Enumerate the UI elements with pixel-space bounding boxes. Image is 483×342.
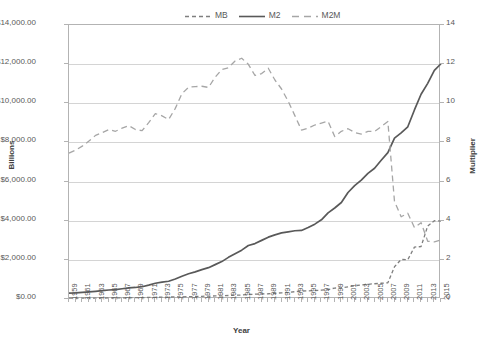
x-axis-tick-label: 1987 <box>257 283 265 300</box>
x-axis-tick <box>334 298 335 302</box>
x-axis-tick-label: 1991 <box>284 283 292 300</box>
legend-swatch-m2m <box>292 12 318 19</box>
x-axis-tick <box>307 298 308 302</box>
y-axis-left-tick <box>64 102 68 103</box>
y-axis-left-tick <box>64 63 68 64</box>
x-axis-tick-label: 1979 <box>204 283 212 300</box>
x-axis-tick-label: 2001 <box>350 283 358 300</box>
x-axis-tick <box>254 298 255 302</box>
y-axis-right-tick <box>440 63 444 64</box>
x-axis-tick-label: 1985 <box>244 283 252 300</box>
y-axis-right-tick-label: 10 <box>446 97 476 105</box>
x-axis-tick-label: 1981 <box>217 283 225 300</box>
x-axis-tick-label: 1973 <box>164 283 172 300</box>
legend-item-m2m: M2M <box>292 11 341 20</box>
legend-swatch-m2 <box>239 12 265 19</box>
x-axis-tick <box>374 298 375 302</box>
x-axis-tick <box>188 298 189 302</box>
y-axis-right-tick-label: 8 <box>446 136 476 144</box>
x-axis-tick-label: 1967 <box>124 283 132 300</box>
x-axis-tick-label: 1989 <box>270 283 278 300</box>
x-axis-tick-label: 1971 <box>151 283 159 300</box>
y-axis-left-tick-label: $2,000.00 <box>0 254 36 262</box>
x-axis-tick-label: 1965 <box>111 283 119 300</box>
legend-item-mb: MB <box>185 11 228 20</box>
series-line-m2m <box>69 58 441 242</box>
x-axis-tick <box>241 298 242 302</box>
x-axis-tick-label: 2013 <box>430 283 438 300</box>
legend-label-mb: MB <box>215 11 228 20</box>
x-axis-tick-label: 2011 <box>416 284 424 300</box>
x-axis-tick-label: 1963 <box>98 283 106 300</box>
y-axis-right-tick-label: 4 <box>446 215 476 223</box>
x-axis-tick <box>440 298 441 302</box>
y-axis-right-tick-label: 12 <box>446 58 476 66</box>
legend-swatch-mb <box>185 12 211 19</box>
x-axis-tick <box>294 298 295 302</box>
x-axis-tick-label: 1959 <box>71 283 79 300</box>
plot-area <box>68 24 440 298</box>
y-axis-left-tick-label: $10,000.00 <box>0 97 36 105</box>
x-axis-tick <box>95 298 96 302</box>
x-axis-tick <box>68 298 69 302</box>
legend-label-m2: M2 <box>269 11 281 20</box>
x-axis-title: Year <box>0 327 483 335</box>
x-axis-tick <box>148 298 149 302</box>
y-axis-right-tick <box>440 181 444 182</box>
x-axis-tick-label: 2009 <box>403 283 411 300</box>
chart-legend: MB M2 M2M <box>185 11 340 20</box>
y-axis-left-tick <box>64 24 68 25</box>
x-axis-tick-label: 2007 <box>390 283 398 300</box>
legend-label-m2m: M2M <box>322 11 341 20</box>
x-axis-tick <box>427 298 428 302</box>
y-axis-right-tick-label: 2 <box>446 254 476 262</box>
y-axis-left-tick-label: $0.00 <box>0 293 36 301</box>
y-axis-left-tick-label: $12,000.00 <box>0 58 36 66</box>
y-axis-right-tick-label: 6 <box>446 176 476 184</box>
x-axis-tick <box>281 298 282 302</box>
y-axis-right-tick-label: 14 <box>446 19 476 27</box>
y-axis-left-tick <box>64 141 68 142</box>
x-axis-tick <box>347 298 348 302</box>
x-axis-tick-label: 1961 <box>84 283 92 300</box>
legend-item-m2: M2 <box>239 11 281 20</box>
x-axis-tick-label: 1995 <box>310 283 318 300</box>
x-axis-tick <box>387 298 388 302</box>
x-axis-tick <box>400 298 401 302</box>
y-axis-right-tick <box>440 259 444 260</box>
x-axis-tick <box>214 298 215 302</box>
y-axis-right-tick <box>440 220 444 221</box>
x-axis-tick-label: 1975 <box>177 283 185 300</box>
x-axis-tick <box>201 298 202 302</box>
x-axis-tick-label: 1969 <box>137 283 145 300</box>
y-axis-left-tick <box>64 259 68 260</box>
y-axis-right-tick <box>440 102 444 103</box>
x-axis-tick <box>121 298 122 302</box>
x-axis-tick-label: 1999 <box>337 283 345 300</box>
x-axis-tick-label: 1997 <box>323 283 331 300</box>
x-axis-tick-label: 1977 <box>191 283 199 300</box>
y-axis-left-tick-label: $14,000.00 <box>0 19 36 27</box>
y-axis-left-tick <box>64 181 68 182</box>
x-axis-tick-label: 2015 <box>443 283 451 300</box>
x-axis-tick-label: 1993 <box>297 283 305 300</box>
series-layer <box>69 25 441 299</box>
money-supply-chart: MB M2 M2M Billions Multiplier Year $14,0… <box>0 0 483 342</box>
y-axis-left-tick-label: $8,000.00 <box>0 136 36 144</box>
x-axis-tick <box>161 298 162 302</box>
x-axis-tick <box>108 298 109 302</box>
x-axis-tick-label: 2003 <box>363 283 371 300</box>
y-axis-right-tick <box>440 24 444 25</box>
x-axis-tick-label: 1983 <box>230 283 238 300</box>
y-axis-right-tick <box>440 141 444 142</box>
x-axis-tick-label: 2005 <box>377 283 385 300</box>
y-axis-left-tick-label: $6,000.00 <box>0 176 36 184</box>
series-line-m2 <box>69 64 441 293</box>
y-axis-left-tick <box>64 220 68 221</box>
y-axis-left-tick-label: $4,000.00 <box>0 215 36 223</box>
